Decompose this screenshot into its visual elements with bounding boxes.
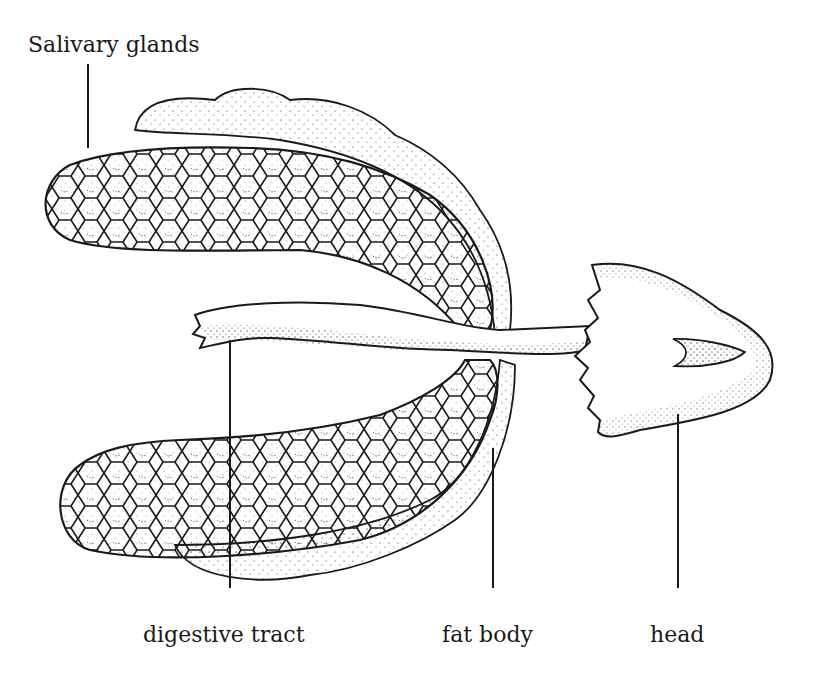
label-fat-body: fat body: [442, 624, 533, 646]
label-salivary-glands: Salivary glands: [28, 34, 200, 56]
anatomy-illustration: [0, 0, 815, 682]
head: [575, 264, 773, 437]
leader-line-fat-body: [492, 448, 494, 588]
digestive-tract: [193, 302, 590, 354]
label-head: head: [650, 624, 704, 646]
leader-line-head: [677, 414, 679, 588]
diagram-canvas: Salivary glands digestive tract fat body…: [0, 0, 815, 682]
label-digestive-tract: digestive tract: [143, 624, 304, 646]
leader-line-salivary-glands: [87, 64, 89, 148]
leader-line-digestive-tract: [229, 340, 231, 588]
